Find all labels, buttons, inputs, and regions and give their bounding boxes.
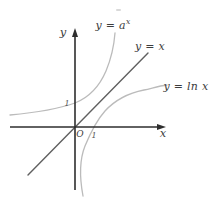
function-graph-figure: y x O 1 1 y = ax y = x y = ln x <box>0 0 215 201</box>
exponential-curve-label: y = ax <box>95 20 130 31</box>
y-axis-label: y <box>60 27 67 39</box>
identity-line-label: y = x <box>135 41 165 52</box>
y-axis-arrowhead <box>72 28 78 37</box>
logarithm-curve <box>81 85 167 196</box>
logarithm-curve-label: y = ln x <box>163 81 208 92</box>
exponential-label-exponent: x <box>126 17 131 26</box>
x-unit-tick-label: 1 <box>91 132 96 140</box>
x-axis-label: x <box>160 128 167 140</box>
identity-line <box>28 53 148 175</box>
exponential-label-base: y = a <box>95 19 125 32</box>
scan-artifact <box>116 9 121 11</box>
y-unit-tick-label: 1 <box>64 100 69 108</box>
origin-label: O <box>76 130 83 139</box>
